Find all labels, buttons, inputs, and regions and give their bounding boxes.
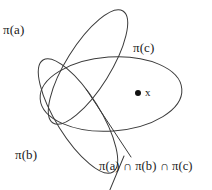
venn-diagram-figure: π(a) π(c) π(b) x π(a) ∩ π(b) ∩ π(c)	[0, 0, 212, 190]
set-label-pi-b: π(b)	[15, 148, 37, 161]
point-x-marker	[135, 90, 141, 96]
intersection-caption-label: π(a) ∩ π(b) ∩ π(c)	[99, 160, 193, 173]
point-x-label: x	[145, 87, 151, 98]
leader-line-left	[86, 89, 131, 157]
set-ellipse-pi-c	[38, 52, 185, 136]
set-ellipse-pi-a	[34, 0, 141, 135]
set-label-pi-c: π(c)	[133, 41, 154, 54]
set-label-pi-a: π(a)	[3, 23, 24, 36]
